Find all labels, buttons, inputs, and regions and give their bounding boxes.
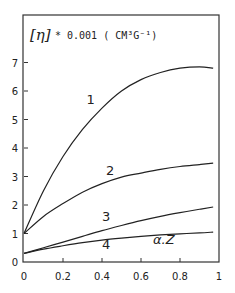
y-tick-label: 1 [12,229,18,240]
y-tick-label: 2 [12,200,18,211]
curves: 1234 [24,67,213,254]
curve-1 [24,67,213,234]
curve-label-3: 3 [102,209,110,224]
y-tick-label: 4 [12,143,18,154]
y-tick-label: 5 [12,115,18,126]
chart: 01234567 00.20.40.60.81 1234 [η] * 0.001… [0,0,235,293]
x-tick-label: 0.2 [55,271,71,282]
y-tick-label: 3 [12,172,18,183]
y-axis-label: [η] * 0.001 ( CM³G⁻¹) [30,26,157,44]
x-tick-label: 1 [216,271,222,282]
y-tick-label: 0 [12,257,18,268]
plot-frame [23,15,219,262]
curve-label-4: 4 [102,237,110,252]
y-tick-label: 6 [12,86,18,97]
y-tick-label: 7 [12,58,18,69]
ylabel-symbol: [η] [30,26,51,44]
ylabel-text: * 0.001 ( CM³G⁻¹) [55,30,157,41]
x-tick-label: 0.4 [94,271,110,282]
curve-label-1: 1 [86,92,94,107]
y-axis: 01234567 [12,58,28,269]
curve-3 [24,207,213,253]
x-tick-label: 0 [21,271,27,282]
annotation-alpha-z: α.Z [153,232,176,247]
curve-label-2: 2 [106,163,114,178]
x-tick-label: 0.8 [172,271,188,282]
curve-4 [24,232,213,253]
x-tick-label: 0.6 [133,271,149,282]
